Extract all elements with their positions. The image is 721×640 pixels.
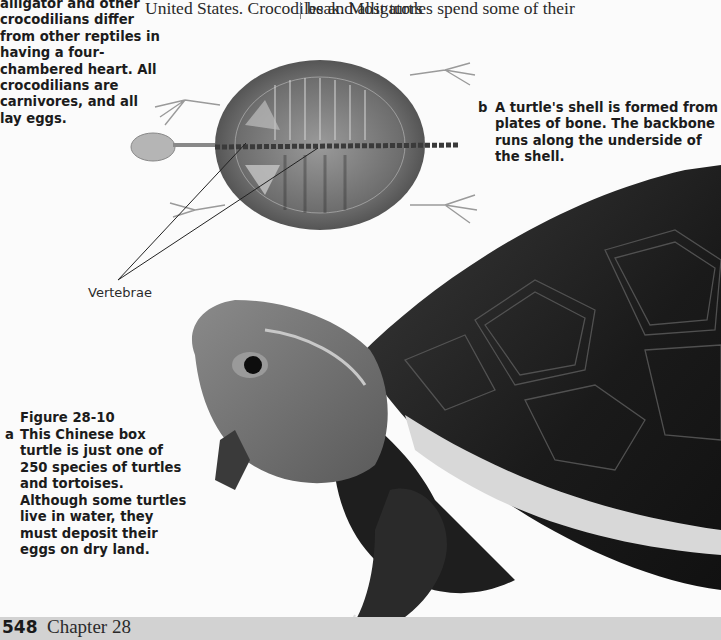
page-footer: 548 Chapter 28: [0, 617, 721, 640]
chapter-label: Chapter 28: [47, 616, 131, 638]
body-text-left-column: United States. Crocodiles and alligators: [145, 0, 295, 19]
column-divider: [300, 2, 301, 19]
caption-b-text: A turtle's shell is formed from plates o…: [495, 100, 721, 165]
caption-a-text: This Chinese box turtle is just one of 2…: [20, 427, 190, 559]
figure-number: Figure 28-10: [20, 410, 115, 427]
page-number: 548: [2, 617, 38, 637]
label-vertebrae: Vertebrae: [88, 285, 152, 300]
body-text-right-column: beak. Most turtles spend some of their: [307, 0, 575, 19]
caption-b-letter: b: [478, 100, 487, 116]
caption-a-letter: a: [5, 427, 14, 444]
chinese-box-turtle-image: [175, 160, 721, 640]
